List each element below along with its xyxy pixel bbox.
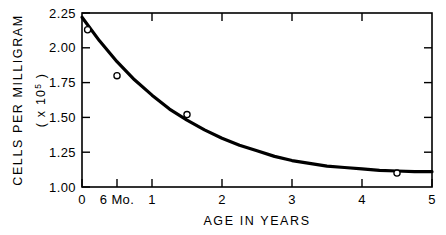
x-tick-label: 4 bbox=[358, 192, 366, 207]
x-axis-tick-labels: 06 Mo.12345 bbox=[78, 192, 436, 207]
y-axis-unit-multiplier: ( x 105 ) bbox=[33, 73, 48, 127]
plot-frame bbox=[82, 13, 432, 187]
x-tick-label: 5 bbox=[428, 192, 436, 207]
y-axis-tick-labels: 1.001.251.501.752.002.25 bbox=[49, 6, 76, 195]
data-point-markers bbox=[85, 27, 401, 177]
chart-canvas: 1.001.251.501.752.002.25 06 Mo.12345 AGE… bbox=[0, 0, 446, 235]
y-axis-ticks-left bbox=[82, 13, 90, 187]
y-tick-label: 1.75 bbox=[49, 75, 76, 90]
data-point-marker bbox=[85, 27, 91, 33]
y-tick-label: 2.00 bbox=[49, 40, 76, 55]
figure-container: 1.001.251.501.752.002.25 06 Mo.12345 AGE… bbox=[0, 0, 446, 235]
x-tick-label: 1 bbox=[148, 192, 156, 207]
y-tick-label: 2.25 bbox=[49, 6, 76, 21]
x-tick-label: 2 bbox=[218, 192, 226, 207]
y-axis-title: CELLS PER MILLIGRAM bbox=[11, 14, 25, 185]
decay-curve bbox=[82, 17, 432, 172]
x-tick-label: 0 bbox=[78, 192, 86, 207]
x-tick-label: 3 bbox=[288, 192, 296, 207]
x-axis-ticks-top bbox=[152, 13, 362, 21]
x-axis-title: AGE IN YEARS bbox=[203, 214, 310, 228]
y-axis-unit-prefix: ( x 10 bbox=[34, 89, 48, 127]
data-point-marker bbox=[394, 170, 400, 176]
x-tick-label: 6 Mo. bbox=[100, 192, 135, 207]
y-tick-label: 1.25 bbox=[49, 145, 76, 160]
y-axis-unit-suffix: ) bbox=[34, 73, 48, 83]
data-point-marker bbox=[184, 112, 190, 118]
y-tick-label: 1.50 bbox=[49, 110, 76, 125]
y-tick-label: 1.00 bbox=[49, 180, 76, 195]
x-axis-ticks-bottom bbox=[82, 179, 432, 187]
data-point-marker bbox=[114, 73, 120, 79]
y-axis-ticks-right bbox=[424, 48, 432, 152]
